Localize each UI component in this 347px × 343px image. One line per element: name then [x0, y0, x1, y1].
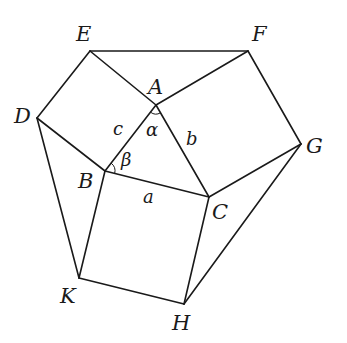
label-vertex-c: C	[212, 200, 228, 224]
edge-bc	[105, 171, 209, 197]
label-vertex-k: K	[59, 284, 77, 308]
edge-af	[156, 51, 248, 105]
label-vertex-d: D	[13, 104, 31, 128]
label-vertex-a: A	[146, 75, 163, 99]
label-side-a: a	[143, 186, 154, 207]
label-vertex-g: G	[306, 134, 323, 158]
edge-ea	[90, 51, 156, 105]
label-vertex-f: F	[251, 22, 268, 46]
square-abde	[37, 51, 156, 171]
geometry-diagram: E F A D G B C K H c b a α β	[0, 0, 347, 343]
edge-gh	[184, 144, 301, 304]
label-side-b: b	[186, 128, 198, 149]
label-vertex-b: B	[77, 169, 93, 193]
edge-dk	[37, 118, 79, 278]
connecting-edges	[37, 51, 301, 304]
label-side-c: c	[113, 118, 123, 139]
square-acgf	[156, 51, 301, 197]
edge-gc	[209, 144, 301, 197]
angle-alpha-arc	[151, 112, 161, 114]
label-angle-beta: β	[120, 149, 131, 170]
label-angle-alpha: α	[146, 119, 158, 140]
edge-ac	[156, 105, 209, 197]
edge-de	[37, 51, 90, 118]
label-vertex-h: H	[171, 311, 191, 335]
label-vertex-e: E	[75, 22, 91, 46]
edge-hk	[79, 278, 184, 304]
edge-bd	[37, 118, 105, 171]
edge-fg	[248, 51, 301, 144]
